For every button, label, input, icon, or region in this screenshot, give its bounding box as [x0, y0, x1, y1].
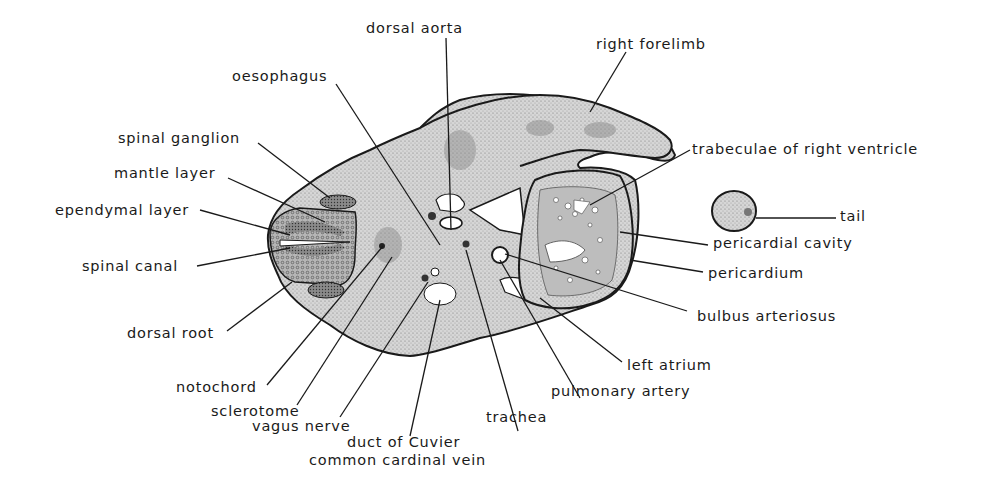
label-trabeculae: trabeculae of right ventricle — [692, 141, 918, 157]
label-left-atrium: left atrium — [627, 357, 712, 373]
label-mantle-layer: mantle layer — [114, 165, 215, 181]
label-dorsal-aorta: dorsal aorta — [366, 20, 463, 36]
label-notochord: notochord — [176, 379, 257, 395]
label-right-forelimb: right forelimb — [596, 36, 706, 52]
label-spinal-ganglion: spinal ganglion — [118, 130, 240, 146]
label-common-cardinal-vein: common cardinal vein — [309, 452, 486, 468]
label-bulbus-arteriosus: bulbus arteriosus — [697, 308, 836, 324]
label-pericardial-cavity: pericardial cavity — [713, 235, 853, 251]
label-dorsal-root: dorsal root — [127, 325, 214, 341]
label-pulmonary-artery: pulmonary artery — [551, 383, 690, 399]
label-spinal-canal: spinal canal — [82, 258, 178, 274]
label-sclerotome: sclerotome — [211, 403, 300, 419]
label-tail: tail — [840, 208, 866, 224]
label-ependymal-layer: ependymal layer — [55, 202, 189, 218]
label-duct-of-cuvier: duct of Cuvier — [347, 434, 460, 450]
label-trachea: trachea — [486, 409, 547, 425]
tail-section — [712, 191, 756, 231]
diagram-canvas: dorsal aorta right forelimb oesophagus s… — [0, 0, 988, 491]
label-pericardium: pericardium — [708, 265, 804, 281]
label-vagus-nerve: vagus nerve — [252, 418, 350, 434]
label-oesophagus: oesophagus — [232, 68, 327, 84]
